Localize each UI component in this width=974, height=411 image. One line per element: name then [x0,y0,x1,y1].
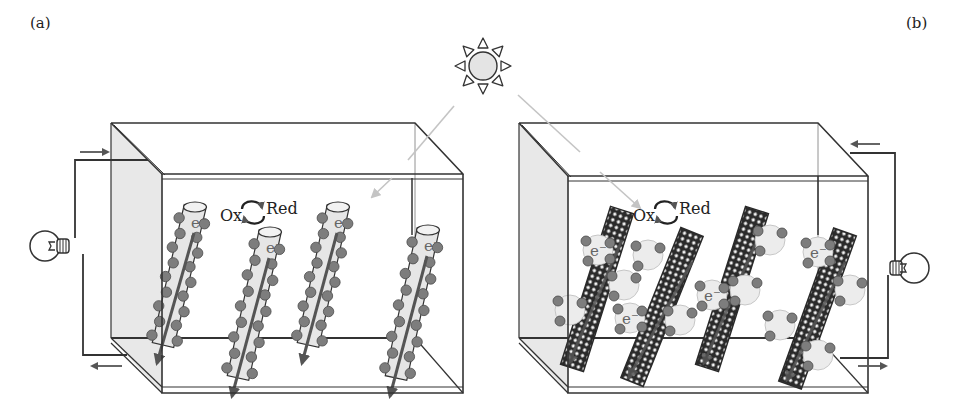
electron-label: e⁻ [266,239,283,257]
sensitizer-particle [316,320,326,330]
sensitizer-particle [412,337,422,347]
sensitizer-particle [317,213,327,223]
sensitizer-particle [401,285,411,295]
photoanode-rod: e⁻ [222,227,285,396]
electron-label: e⁻ [191,214,208,232]
sensitizer-particle [167,242,177,252]
sensitizer-particle [835,296,845,306]
sensitizer-particle [292,330,302,340]
sensitizer-particle [317,336,327,346]
quantum-dot [607,270,641,301]
quantum-dot [728,275,762,306]
quantum-dot [631,240,665,271]
sensitizer-particle [254,337,264,347]
sensitizer-particle [175,228,185,238]
quantum-dot: e⁻ [695,280,729,311]
sensitizer-particle [246,352,256,362]
sensitizer-particle [380,363,390,373]
sensitizer-particle [607,271,617,281]
sensitizer-particle [147,330,157,340]
sensitizer-particle [261,306,271,316]
sensitizer-particle [777,228,787,238]
sensitizer-particle [405,368,415,378]
electron-label: e⁻ [590,242,607,260]
sensitizer-particle [755,246,765,256]
sensitizer-particle [411,320,421,330]
sensitizer-particle [633,261,643,271]
sensitizer-particle [803,361,813,371]
sensitizer-particle [631,273,641,283]
sensitizer-particle [253,321,263,331]
light-bulb-icon [30,231,69,261]
sensitizer-particle [186,277,196,287]
sensitizer-particle [687,308,697,318]
cycle-arrow-icon [655,201,675,209]
sensitizer-particle [753,226,763,236]
cycle-arrow-icon [244,216,264,224]
sensitizer-particle [305,287,315,297]
sensitizer-particle [168,258,178,268]
electron-label: e⁻ [622,310,639,328]
sensitizer-particle [408,254,418,264]
cycle-arrow-icon [657,216,677,224]
sensitizer-particle [555,316,565,326]
sensitizer-particle [243,286,253,296]
sensitizer-particle [250,255,260,265]
sensitizer-particle [752,278,762,288]
cell-panel-b: e⁻e⁻e⁻e⁻OxRed [519,123,929,393]
sensitizer-particle [857,278,867,288]
sensitizer-particle [404,351,414,361]
quantum-dot [763,310,797,341]
sensitizer-particle [330,277,340,287]
electron-label: e⁻ [424,237,441,255]
sensitizer-particle [825,343,835,353]
side-wall [111,123,162,393]
sensitizer-particle [631,241,641,251]
sensitizer-particle [299,316,309,326]
sensitizer-particle [609,291,619,301]
carbon-nanotube: e⁻ [613,228,703,387]
cell-top [519,123,868,176]
red-label: Red [266,199,298,218]
red-label: Red [679,199,711,218]
sensitizer-particle [386,331,396,341]
sensitizer-particle [419,305,429,315]
panel-label-a: (a) [30,14,51,32]
carbon-nanotube: e⁻ [695,206,787,371]
sun-icon [455,38,511,94]
sensitizer-particle [304,271,314,281]
sensitizer-particle [178,291,188,301]
sensitizer-particle [323,306,333,316]
electron-label: e⁻ [334,214,351,232]
sensitizer-particle [407,237,417,247]
sensitizer-particle [318,228,328,238]
sensitizer-particle [322,291,332,301]
sensitizer-particle [400,268,410,278]
electron-label: e⁻ [810,244,827,262]
sensitizer-particle [426,274,436,284]
sensitizer-particle [171,320,181,330]
sensitizer-particle [394,316,404,326]
sensitizer-particle [247,368,257,378]
quantum-dot [753,225,787,256]
sensitizer-particle [298,301,308,311]
sensitizer-particle [174,213,184,223]
sensitizer-particle [655,243,665,253]
sensitizer-particle [249,239,259,249]
circuit-wire [850,153,895,262]
sensitizer-particle [728,276,738,286]
sensitizer-particle [154,316,164,326]
sensitizer-particle [267,275,277,285]
sensitizer-particle [236,317,246,327]
quantum-dot [801,340,835,371]
sensitizer-particle [222,363,232,373]
ox-label: Ox [633,206,655,225]
sensitizer-particle [801,341,811,351]
light-ray [372,178,392,197]
sensitizer-particle [242,270,252,280]
quantum-dot: e⁻ [581,235,615,266]
sensitizer-particle [730,296,740,306]
sensitizer-particle [665,326,675,336]
sensitizer-particle [235,301,245,311]
sensitizer-particle [192,248,202,258]
